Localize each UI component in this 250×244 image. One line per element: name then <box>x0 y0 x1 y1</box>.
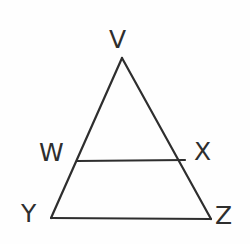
vertex-label-x: X <box>194 139 211 164</box>
geometry-figure: V W X Y Z <box>0 0 250 244</box>
segment-W-X <box>77 160 185 161</box>
vertex-label-z: Z <box>215 203 232 228</box>
vertex-label-y: Y <box>21 201 36 226</box>
segment-Y-Z <box>51 218 211 219</box>
vertex-label-w: W <box>39 140 64 165</box>
vertex-label-v: V <box>109 27 126 52</box>
